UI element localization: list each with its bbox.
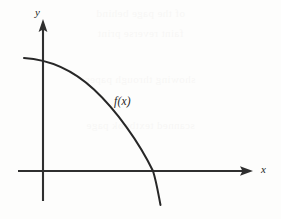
figure-container: of the page behind faint reverse print s… [0, 0, 281, 219]
graph-canvas [0, 0, 281, 219]
function-curve [24, 58, 161, 205]
y-axis-label: y [35, 6, 40, 18]
curve-label-fx: f(x) [114, 95, 131, 107]
x-axis-label: x [261, 163, 266, 175]
